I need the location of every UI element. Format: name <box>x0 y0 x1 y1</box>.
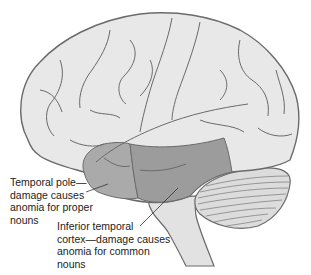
label-line: anomia for common <box>57 245 170 258</box>
label-line: cortex—damage causes <box>57 233 170 246</box>
inferior-temporal-label: Inferior temporal cortex—damage causes a… <box>57 220 170 270</box>
label-line: Inferior temporal <box>57 220 170 233</box>
brain-diagram: Temporal pole— damage causes anomia for … <box>0 0 311 275</box>
label-line: anomia for proper <box>10 201 93 214</box>
label-line: nouns <box>57 258 170 271</box>
temporal-pole-label: Temporal pole— damage causes anomia for … <box>10 176 93 226</box>
label-line: Temporal pole— <box>10 176 93 189</box>
label-line: damage causes <box>10 189 93 202</box>
